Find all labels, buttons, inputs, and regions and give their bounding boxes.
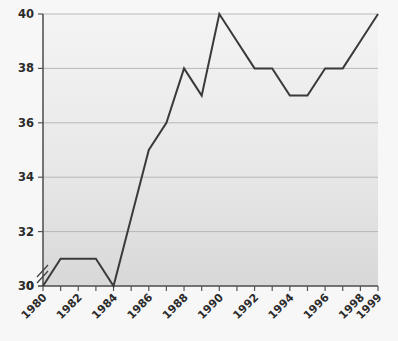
y-tick-label-36: 36 bbox=[18, 116, 34, 130]
chart-canvas: 0303234363840 19801982198419861988199019… bbox=[0, 0, 398, 341]
line-chart: 0303234363840 19801982198419861988199019… bbox=[0, 0, 398, 341]
y-tick-label-40: 40 bbox=[18, 7, 34, 21]
y-tick-label-30: 30 bbox=[18, 279, 34, 293]
y-tick-label-38: 38 bbox=[18, 61, 34, 75]
y-tick-label-34: 34 bbox=[18, 170, 34, 184]
y-tick-label-32: 32 bbox=[18, 225, 34, 239]
